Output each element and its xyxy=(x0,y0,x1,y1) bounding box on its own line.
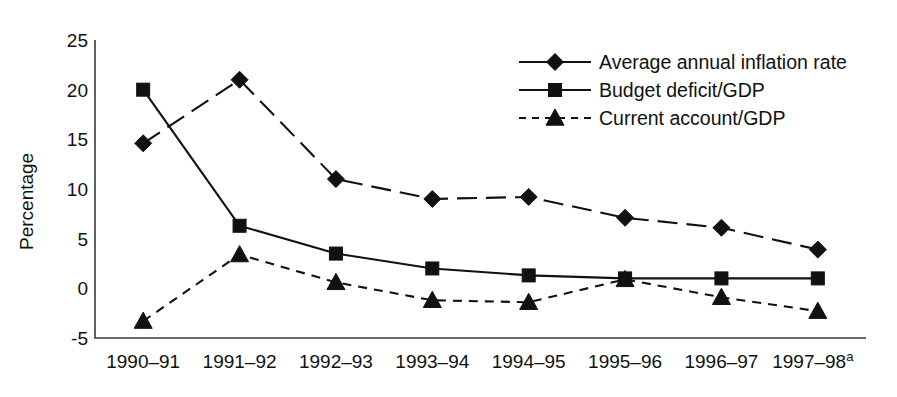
chart-canvas: -50510152025 1990–911991–921992–931993–9… xyxy=(0,0,897,397)
data-point-triangle xyxy=(809,302,827,318)
data-point-square xyxy=(522,269,535,282)
data-point-square xyxy=(811,272,824,285)
x-tick-label: 1997–98a xyxy=(772,349,854,372)
x-tick-label: 1991–92 xyxy=(203,351,277,372)
x-tick-label: 1995–96 xyxy=(588,351,662,372)
y-tick-label: 15 xyxy=(67,129,88,150)
chart-figure: -50510152025 1990–911991–921992–931993–9… xyxy=(0,0,897,397)
y-tick-label: 10 xyxy=(67,179,88,200)
data-series xyxy=(134,246,827,329)
footnote-marker: a xyxy=(846,349,854,364)
legend-label: Average annual inflation rate xyxy=(599,51,847,73)
y-tick-label: 5 xyxy=(77,229,88,250)
y-axis-tick-labels: -50510152025 xyxy=(67,30,88,349)
data-point-diamond xyxy=(617,209,634,226)
series-line xyxy=(143,255,818,322)
y-tick-label: 25 xyxy=(67,30,88,51)
x-tick-label: 1996–97 xyxy=(684,351,758,372)
data-point-square xyxy=(715,272,728,285)
data-point-square xyxy=(549,84,562,97)
data-point-diamond xyxy=(424,190,441,207)
legend-entry: Current account/GDP xyxy=(519,107,785,129)
data-point-triangle xyxy=(712,288,730,304)
y-axis-title-group: Percentage xyxy=(16,153,37,250)
y-tick-label: 20 xyxy=(67,80,88,101)
data-point-diamond xyxy=(713,219,730,236)
data-point-square xyxy=(426,262,439,275)
x-tick-label: 1992–93 xyxy=(299,351,373,372)
data-point-square xyxy=(233,219,246,232)
legend-label: Current account/GDP xyxy=(599,107,785,129)
x-axis-tick-labels: 1990–911991–921992–931993–941994–951995–… xyxy=(106,349,854,372)
chart-legend: Average annual inflation rateBudget defi… xyxy=(519,51,847,129)
y-tick-label: -5 xyxy=(71,328,88,349)
data-point-triangle xyxy=(231,246,249,262)
data-point-square xyxy=(329,247,342,260)
x-tick-label: 1990–91 xyxy=(106,351,180,372)
y-tick-label: 0 xyxy=(77,278,88,299)
legend-entry: Budget deficit/GDP xyxy=(519,79,765,101)
data-point-triangle xyxy=(134,312,152,328)
data-point-square xyxy=(137,83,150,96)
legend-entry: Average annual inflation rate xyxy=(519,51,847,73)
legend-label: Budget deficit/GDP xyxy=(599,79,765,101)
data-point-diamond xyxy=(547,54,564,71)
x-tick-label: 1994–95 xyxy=(492,351,566,372)
y-axis-title: Percentage xyxy=(16,153,37,250)
data-point-diamond xyxy=(520,188,537,205)
data-point-diamond xyxy=(809,241,826,258)
data-point-diamond xyxy=(135,135,152,152)
x-tick-label: 1993–94 xyxy=(395,351,469,372)
